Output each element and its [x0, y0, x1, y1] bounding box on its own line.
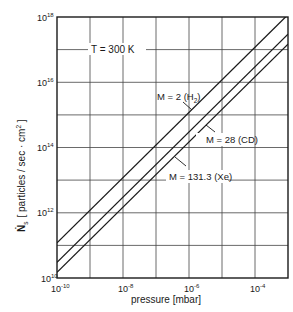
leader-xe	[175, 157, 186, 166]
x-tick-label: 10-4	[250, 283, 266, 294]
y-axis-ticks: 1018 1016 1014 1012 1010	[37, 12, 58, 284]
x-axis-label: pressure [mbar]	[131, 294, 201, 305]
x-tick-label: 10-6	[184, 283, 200, 294]
y-tick-label: 1012	[37, 207, 54, 218]
x-tick-label: 10-10	[51, 283, 70, 294]
leader-co	[206, 125, 215, 132]
series-line-xe	[57, 44, 288, 272]
x-tick-label: 10-8	[118, 283, 134, 294]
y-tick-label: 1018	[37, 12, 54, 23]
y-tick-label: 1014	[37, 142, 54, 153]
chart: T = 300 K M = 2 (H2) M = 28 (CD) M = 131…	[0, 0, 293, 312]
y-axis-label: Ṅs[ particles / sec · cm2 ]	[15, 119, 29, 232]
leader-h2	[183, 102, 192, 110]
temperature-label: T = 300 K	[91, 44, 135, 55]
y-tick-label: 1016	[37, 77, 54, 88]
series-line-co	[57, 34, 288, 262]
series-label-h2: M = 2 (H2)	[157, 91, 200, 104]
x-axis-ticks: 10-10 10-8 10-6 10-4	[51, 283, 266, 294]
y-tick-label: 1010	[41, 273, 58, 284]
series-label-xe: M = 131.3 (Xe)	[169, 171, 232, 182]
series-label-co: M = 28 (CD)	[206, 134, 258, 145]
